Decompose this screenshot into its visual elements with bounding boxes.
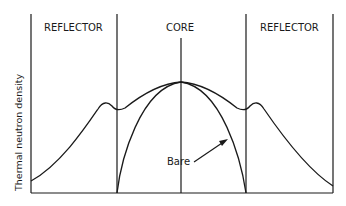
left-reflector-label: REFLECTOR [44, 22, 103, 33]
bare-label: Bare [167, 156, 190, 167]
bare-arrow-line [194, 141, 225, 162]
core-label: CORE [166, 22, 194, 33]
y-axis-label: Thermal neutron density [13, 73, 24, 192]
bare-arrow-head [219, 139, 228, 146]
reflected-flux-curve [31, 82, 333, 186]
right-reflector-label: REFLECTOR [260, 22, 319, 33]
flux-diagram: REFLECTOR CORE REFLECTOR Bare Thermal ne… [0, 0, 346, 206]
